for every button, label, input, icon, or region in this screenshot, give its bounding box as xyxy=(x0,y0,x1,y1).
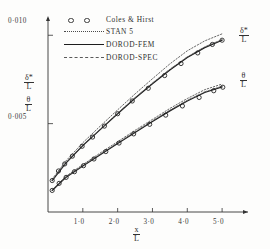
x-tick-label-4: 5·0 xyxy=(213,219,224,226)
curve-label-theta-num: θ xyxy=(240,72,247,80)
y-tick-label-lower: 0·005 xyxy=(8,114,27,121)
y-axis-label-theta-num: θ xyxy=(25,96,32,104)
legend-item-1[interactable]: STAN 5 xyxy=(62,26,192,39)
open-circle-icon xyxy=(84,18,90,24)
legend-label-2: DOROD-FEM xyxy=(106,40,155,49)
figure-canvas: 0·010 0·005 δ* L θ L 1·02·03·04·05·0 x L… xyxy=(0,0,270,249)
curve-label-theta-den: L xyxy=(240,80,247,89)
x-axis-label-num: x xyxy=(133,226,140,234)
series-line-7 xyxy=(52,86,222,190)
legend-label-0: Coles & Hirst xyxy=(106,15,154,24)
legend-key-markers-icon xyxy=(62,13,106,25)
y-axis-label-theta: θ L xyxy=(25,96,32,114)
curve-label-delta-den: L xyxy=(239,35,249,44)
series-line-5 xyxy=(52,87,222,191)
line-sample-icon xyxy=(64,44,104,45)
x-tick-label-1: 2·0 xyxy=(109,219,120,226)
y-axis-label-delta-den: L xyxy=(24,82,34,91)
y-axis-label-theta-den: L xyxy=(25,104,32,113)
y-tick-label-upper: 0·010 xyxy=(8,18,27,25)
x-axis-label-den: L xyxy=(133,234,140,243)
line-sample-icon xyxy=(64,57,104,58)
y-axis-label-delta: δ* L xyxy=(24,74,34,92)
series-markers-4 xyxy=(50,85,225,192)
open-circle-icon xyxy=(68,18,74,24)
x-tick-label-2: 3·0 xyxy=(143,219,154,226)
y-axis-label-delta-num: δ* xyxy=(24,74,34,82)
legend-item-3[interactable]: DOROD-SPEC xyxy=(62,51,192,64)
x-tick-label-0: 1·0 xyxy=(74,219,85,226)
legend-label-1: STAN 5 xyxy=(106,27,134,36)
curve-label-delta-num: δ* xyxy=(239,27,249,35)
legend-key-solid-icon xyxy=(62,38,106,50)
x-axis-label: x L xyxy=(133,226,140,244)
legend-item-2[interactable]: DOROD-FEM xyxy=(62,38,192,51)
curve-label-theta: θ L xyxy=(240,72,247,90)
legend-item-0[interactable]: Coles & Hirst xyxy=(62,13,192,26)
x-tick-label-3: 4·0 xyxy=(178,219,189,226)
curve-label-delta: δ* L xyxy=(239,27,249,45)
line-sample-icon xyxy=(64,31,104,32)
legend-key-dotted-icon xyxy=(62,26,106,38)
chart-legend: Coles & HirstSTAN 5DOROD-FEMDOROD-SPEC xyxy=(62,13,192,63)
legend-label-3: DOROD-SPEC xyxy=(106,53,158,62)
legend-key-dash-dot-icon xyxy=(62,51,106,63)
series-line-6 xyxy=(52,84,222,190)
